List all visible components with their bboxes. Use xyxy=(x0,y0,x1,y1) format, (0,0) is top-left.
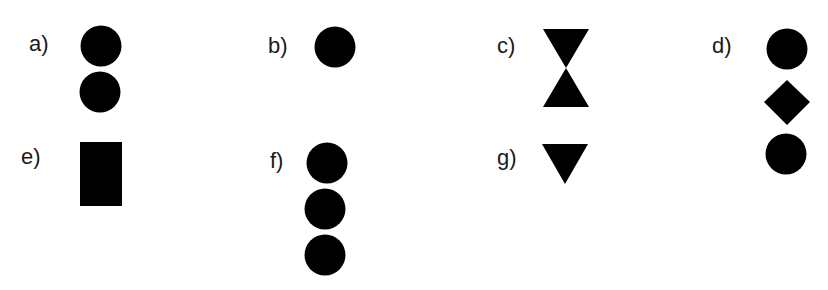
circle-shape xyxy=(80,72,121,113)
rectangle-shape xyxy=(80,142,122,206)
circle-shape xyxy=(766,134,807,175)
item-c-shapes xyxy=(543,29,589,107)
circle-shape xyxy=(307,143,348,184)
downward-triangle-shape xyxy=(542,144,588,184)
circle-shape xyxy=(305,189,346,230)
item-g-shapes xyxy=(542,144,588,184)
circle-shape xyxy=(315,27,356,68)
upward-triangle-shape xyxy=(543,68,589,107)
circle-shape xyxy=(81,26,122,67)
diamond-shape xyxy=(764,80,810,125)
shapes-canvas xyxy=(0,0,828,290)
downward-triangle-shape xyxy=(543,29,589,68)
item-a-shapes xyxy=(80,26,122,113)
item-e-shapes xyxy=(80,142,122,206)
item-b-shapes xyxy=(315,27,356,68)
item-f-shapes xyxy=(305,143,348,276)
circle-shape xyxy=(767,29,808,70)
circle-shape xyxy=(305,235,346,276)
item-d-shapes xyxy=(764,29,810,175)
